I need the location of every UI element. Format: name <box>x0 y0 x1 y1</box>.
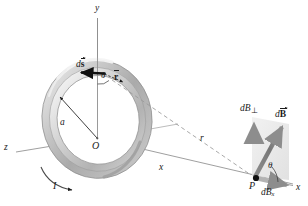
dBtotal-B-vector: B <box>280 110 286 120</box>
current-direction-arrow <box>41 167 72 190</box>
hat-accent <box>114 70 119 71</box>
x-axis-tip <box>286 184 293 186</box>
r-hat-label: r <box>114 73 118 83</box>
distance-x-label: x <box>159 163 163 173</box>
origin-label: O <box>92 141 99 151</box>
dB-total-label: dB <box>275 110 286 120</box>
z-axis-label: z <box>4 143 8 153</box>
current-label: I <box>53 181 56 191</box>
vector-arrow-accent <box>81 58 86 59</box>
theta-loop-label: θ <box>101 71 105 80</box>
theta-P-label: θ <box>268 161 272 170</box>
point-P-label: P <box>249 181 255 191</box>
radius-label: a <box>60 118 65 128</box>
current-loop-ring <box>33 52 160 187</box>
dB-perp-label: dB⊥ <box>240 104 258 114</box>
y-axis-label: y <box>95 4 99 14</box>
distance-r-label: r <box>200 134 204 144</box>
x-axis-label: x <box>296 183 300 193</box>
ds-vector-label: ds <box>76 60 84 70</box>
dBperp-subscript: ⊥ <box>251 106 258 115</box>
dBx-subscript: x <box>272 190 275 197</box>
dB-x-label: dBx <box>261 188 274 198</box>
vector-arrow-accent <box>280 108 287 109</box>
figure-canvas: y z x ds θ r a O I x r P dB⊥ dB dBx θ <box>0 0 308 206</box>
physics-diagram-graphics <box>0 0 308 206</box>
r-hat-wrap: r <box>114 73 118 83</box>
ds-label-s-vector: s <box>81 60 85 70</box>
